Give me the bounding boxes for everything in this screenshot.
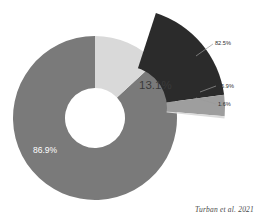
- donut-chart: 86.9% 13.1% 82.5% 15.9% 1.6% Turban et a…: [0, 0, 262, 219]
- source-attribution: Turban et al. 2021: [195, 205, 254, 214]
- label-minor-percent: 13.1%: [139, 79, 172, 91]
- callout-label-2: 15.9%: [218, 83, 234, 89]
- label-major-percent: 86.9%: [33, 145, 58, 155]
- callout-label-3: 1.6%: [218, 101, 231, 107]
- callout-label-1: 82.5%: [215, 40, 231, 46]
